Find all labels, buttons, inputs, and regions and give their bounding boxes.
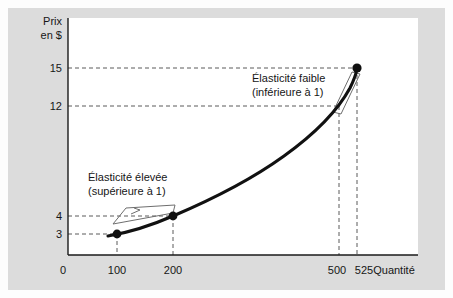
annotation-elasticite-faible-line2: (inférieure à 1)	[252, 86, 324, 98]
y-axis-title-line1: Prix	[43, 15, 62, 27]
x-tick-label-200: 200	[164, 264, 182, 276]
x-tick-label-0: 0	[60, 264, 66, 276]
x-axis-title: Quantité	[373, 264, 415, 276]
data-point-525-15	[352, 63, 361, 72]
annotation-elasticite-elevee-line2: (supérieure à 1)	[88, 185, 166, 197]
bracket-elasticite-elevee-arrow	[131, 208, 140, 214]
y-tick-label-3: 3	[56, 228, 62, 240]
data-point-100-3	[113, 230, 122, 239]
y-tick-label-15: 15	[50, 62, 62, 74]
x-tick-label-500: 500	[328, 264, 346, 276]
data-point-200-4	[169, 212, 178, 221]
annotation-elasticite-elevee-line1: Élasticité élevée	[88, 171, 168, 183]
y-tick-label-4: 4	[56, 210, 62, 222]
y-tick-label-12: 12	[50, 100, 62, 112]
x-tick-label-100: 100	[108, 264, 126, 276]
chart-plot-area: Prix en $ 15 12 4 3 0 100 200 500 525 Qu…	[0, 0, 453, 298]
bracket-elasticite-elevee	[113, 205, 175, 224]
x-tick-label-525: 525	[355, 264, 373, 276]
y-axis-title-line2: en $	[41, 29, 62, 41]
chart-figure: Prix en $ 15 12 4 3 0 100 200 500 525 Qu…	[0, 0, 453, 298]
annotation-elasticite-faible-line1: Élasticité faible	[252, 72, 325, 84]
